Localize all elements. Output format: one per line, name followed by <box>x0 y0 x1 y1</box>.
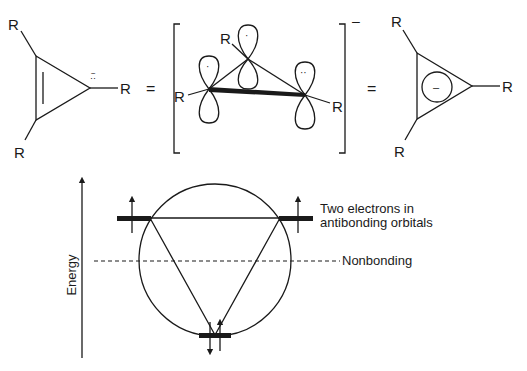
substituent-r-top: R <box>220 30 231 47</box>
bracket-charge: – <box>352 13 360 29</box>
nonbonding-label: Nonbonding <box>342 253 412 268</box>
cyclopropenyl-anion-diagram: R R R ·· − = – R R R · · ·· = <box>0 0 527 371</box>
substituent-r-bottom: R <box>394 143 405 160</box>
middle-structure: – R R R · · ·· <box>174 13 360 153</box>
electron-pair-right: ·· <box>300 67 307 78</box>
left-structure: R R R ·· − <box>8 16 131 161</box>
substituent-r-right: R <box>120 80 131 97</box>
substituent-r-top: R <box>391 13 402 30</box>
antibonding-level-left <box>117 216 151 221</box>
substituent-r-right: R <box>332 98 343 115</box>
antibonding-label-line1: Two electrons in <box>320 201 414 216</box>
substituent-r-top: R <box>8 16 19 33</box>
electron-dot-top: · <box>245 30 248 41</box>
bond-top <box>403 30 417 53</box>
bond-top <box>21 31 36 56</box>
substituent-r-bottom: R <box>14 144 25 161</box>
antibonding-level-right <box>279 216 313 221</box>
right-bracket <box>339 24 345 153</box>
bond-top-right <box>248 59 305 95</box>
bond-bottom <box>25 120 36 140</box>
bond-left-top <box>209 59 248 89</box>
right-structure: – R R R <box>391 13 513 160</box>
ring-triangle <box>417 53 472 119</box>
cyclopropene-ring <box>36 56 90 120</box>
equals-sign-2: = <box>367 80 376 97</box>
inscribed-triangle <box>150 218 280 335</box>
electron-dot-left: · <box>206 61 209 72</box>
ring-charge: – <box>433 81 440 93</box>
frost-circle <box>139 184 291 336</box>
equals-sign-1: = <box>146 80 155 97</box>
bond-bottom <box>405 119 417 140</box>
frost-circle-diagram: Energy Nonbonding Two electrons in antib… <box>64 180 433 358</box>
p-orbital-lobe-left-lower <box>199 89 219 123</box>
p-orbital-lobe-right-lower <box>295 95 315 129</box>
antibonding-label-line2: antibonding orbitals <box>320 215 433 230</box>
negative-charge-mark: − <box>91 69 96 78</box>
substituent-r-right: R <box>502 78 513 95</box>
energy-axis-label: Energy <box>64 254 79 296</box>
bold-front-bond <box>209 87 305 97</box>
substituent-r-left: R <box>174 88 185 105</box>
bond-right-r <box>305 95 330 103</box>
bonding-level <box>199 333 231 338</box>
